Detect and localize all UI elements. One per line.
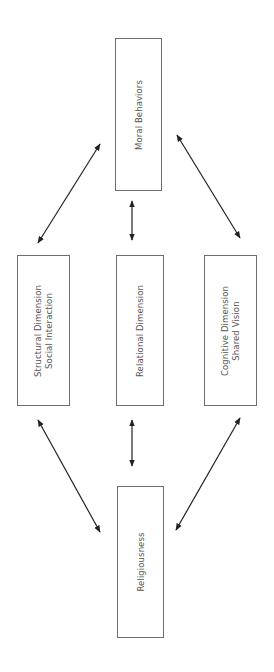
arrow-cognitive-religiousness bbox=[176, 418, 240, 530]
node-label: Moral Behaviors bbox=[133, 80, 144, 150]
arrow-moral-cognitive bbox=[177, 135, 240, 238]
node-cognitive-dimension: Cognitive Dimension Shared Vision bbox=[204, 255, 257, 406]
label-line: Religiousness bbox=[135, 532, 146, 591]
arrow-moral-structural bbox=[38, 144, 100, 243]
label-line: Relational Dimension bbox=[135, 284, 146, 376]
node-moral-behaviors: Moral Behaviors bbox=[115, 38, 162, 191]
node-label: Structural Dimension Social Interaction bbox=[33, 285, 55, 377]
node-label: Religiousness bbox=[135, 532, 146, 591]
label-line: Moral Behaviors bbox=[133, 80, 144, 150]
label-line: Structural Dimension bbox=[33, 285, 44, 377]
arrow-structural-religiousness bbox=[38, 420, 100, 532]
label-line: Cognitive Dimension bbox=[220, 285, 231, 375]
label-line: Shared Vision bbox=[231, 285, 242, 375]
node-label: Cognitive Dimension Shared Vision bbox=[220, 285, 242, 375]
label-line: Social Interaction bbox=[44, 285, 55, 377]
node-religiousness: Religiousness bbox=[117, 486, 164, 638]
node-structural-dimension: Structural Dimension Social Interaction bbox=[17, 255, 70, 406]
node-label: Relational Dimension bbox=[135, 284, 146, 376]
node-relational-dimension: Relational Dimension bbox=[116, 255, 164, 406]
